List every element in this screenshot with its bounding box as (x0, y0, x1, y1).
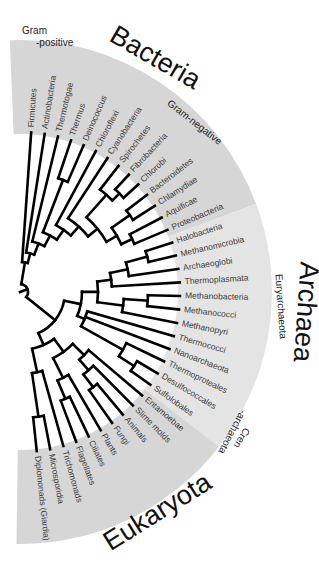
group-label-gram-positive: -positive (36, 37, 74, 48)
phylogenetic-tree: FirmicutesActinobacteriaThermotogaeTherm… (0, 0, 319, 580)
group-label-gram-positive: Gram (22, 25, 47, 36)
leaf-label: Methanobacteria (185, 290, 249, 302)
domain-label-archaea: Archaea (288, 261, 319, 364)
group-label-euryarchaeota: Euryarchaeota (273, 274, 289, 340)
